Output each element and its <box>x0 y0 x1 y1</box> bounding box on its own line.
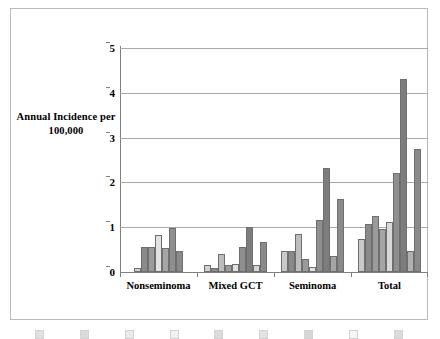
x-axis-tick-mark <box>197 272 198 277</box>
legend-item <box>125 330 136 339</box>
bar[interactable] <box>246 227 253 272</box>
bar[interactable] <box>211 268 218 272</box>
bar[interactable] <box>295 234 302 272</box>
y-axis-tick-mark <box>106 221 110 222</box>
bar[interactable] <box>225 265 232 272</box>
bar[interactable] <box>358 239 365 272</box>
y-axis-tick-label: 4 <box>110 87 116 99</box>
x-axis-tick-mark <box>120 272 121 277</box>
y-axis-tick-mark <box>106 42 110 43</box>
x-axis-group-label: Total <box>351 280 428 291</box>
bar-set <box>358 48 421 272</box>
y-axis-title: Annual Incidence per 100,000 <box>14 110 118 138</box>
bar[interactable] <box>218 254 225 272</box>
bar[interactable] <box>393 173 400 272</box>
bar[interactable] <box>302 259 309 272</box>
legend-item <box>35 330 46 339</box>
bar[interactable] <box>155 235 162 272</box>
bar[interactable] <box>260 242 267 272</box>
legend-item <box>259 330 270 339</box>
bar[interactable] <box>407 251 414 273</box>
x-axis-tick-mark <box>427 272 428 277</box>
bar[interactable] <box>386 222 393 272</box>
bar[interactable] <box>141 247 148 272</box>
bar[interactable] <box>204 265 211 272</box>
bar[interactable] <box>330 256 337 272</box>
x-axis-tick-mark <box>351 272 352 277</box>
legend <box>0 330 440 339</box>
bar[interactable] <box>288 251 295 272</box>
bar[interactable] <box>323 168 330 272</box>
legend-swatch <box>125 330 134 339</box>
bar[interactable] <box>148 247 155 272</box>
legend-swatch <box>170 330 179 339</box>
bar[interactable] <box>414 149 421 272</box>
legend-swatch <box>349 330 358 339</box>
legend-swatch <box>304 330 313 339</box>
bar[interactable] <box>169 228 176 272</box>
bar[interactable] <box>232 264 239 272</box>
y-axis-tick-label: 1 <box>110 221 116 233</box>
y-axis-tick-label: 3 <box>110 132 116 144</box>
bar[interactable] <box>372 216 379 272</box>
legend-item <box>170 330 181 339</box>
legend-swatch <box>80 330 89 339</box>
y-axis-tick-label: 5 <box>110 42 116 54</box>
y-axis-tick-label: 2 <box>110 176 116 188</box>
legend-item <box>349 330 360 339</box>
x-axis-group-label: Nonseminoma <box>120 280 197 291</box>
bar-group: Seminoma <box>274 48 351 272</box>
legend-item <box>304 330 315 339</box>
bar[interactable] <box>134 268 141 272</box>
bar-set <box>281 48 344 272</box>
legend-item <box>80 330 91 339</box>
legend-swatch <box>35 330 44 339</box>
y-axis-tick-mark <box>106 87 110 88</box>
y-axis-tick-mark <box>106 176 110 177</box>
bar[interactable] <box>253 265 260 272</box>
x-axis-tick-mark <box>274 272 275 277</box>
bar[interactable] <box>239 247 246 272</box>
bar[interactable] <box>365 224 372 272</box>
bar-group: Nonseminoma <box>120 48 197 272</box>
bar-groups: NonseminomaMixed GCTSeminomaTotal <box>120 48 428 272</box>
y-axis-title-line2: 100,000 <box>14 124 118 138</box>
chart-page: Annual Incidence per 100,000 012345 Nons… <box>0 0 440 339</box>
y-axis-tick-mark <box>106 132 110 133</box>
bar-set <box>134 48 183 272</box>
legend-swatch <box>259 330 268 339</box>
bar[interactable] <box>379 229 386 272</box>
legend-swatch <box>394 330 403 339</box>
y-axis-tick-mark <box>106 266 110 267</box>
plot-area: 012345 NonseminomaMixed GCTSeminomaTotal <box>120 48 428 272</box>
bar[interactable] <box>337 199 344 272</box>
bar[interactable] <box>281 251 288 273</box>
bar-group: Mixed GCT <box>197 48 274 272</box>
y-axis-title-line1: Annual Incidence per <box>14 110 118 124</box>
legend-item <box>394 330 405 339</box>
bar-group: Total <box>351 48 428 272</box>
bar-set <box>204 48 267 272</box>
y-axis-tick-label: 0 <box>110 266 116 278</box>
bar[interactable] <box>309 267 316 272</box>
bar[interactable] <box>400 79 407 272</box>
bar[interactable] <box>162 248 169 272</box>
legend-item <box>214 330 225 339</box>
bar[interactable] <box>176 251 183 273</box>
x-axis-group-label: Mixed GCT <box>197 280 274 291</box>
legend-swatch <box>214 330 223 339</box>
bar[interactable] <box>316 220 323 272</box>
x-axis-group-label: Seminoma <box>274 280 351 291</box>
